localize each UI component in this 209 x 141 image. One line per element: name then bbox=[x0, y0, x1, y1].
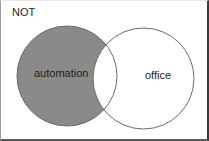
venn-diagram-frame: NOT automation office bbox=[0, 0, 209, 141]
automation-label: automation bbox=[34, 67, 88, 79]
operator-label: NOT bbox=[12, 6, 36, 18]
office-label: office bbox=[145, 69, 171, 81]
venn-diagram: NOT automation office bbox=[1, 1, 209, 141]
